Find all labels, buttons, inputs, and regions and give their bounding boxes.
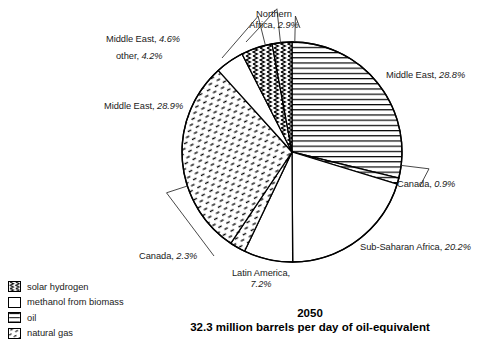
swatch-oil xyxy=(8,312,21,323)
chart-caption: 2050 32.3 million barrels per day of oil… xyxy=(150,306,470,334)
slice-label-other: other, 4.2% xyxy=(116,51,163,62)
swatch-solar-hydrogen xyxy=(8,281,21,292)
legend-row-solar-hydrogen[interactable]: solar hydrogen xyxy=(8,279,188,295)
slice-label-middle-east-oil: Middle East, 28.8% xyxy=(386,70,465,81)
slice-percent: 2.9% xyxy=(278,20,299,30)
slice-percent: 4.2% xyxy=(142,51,163,61)
legend-label: solar hydrogen xyxy=(27,282,89,292)
slice-label-northern-africa: Northern Africa, 2.9% xyxy=(236,9,312,31)
slice-label-middle-east-solar-hydrogen: Middle East, 4.6% xyxy=(106,34,180,45)
legend-label: oil xyxy=(27,313,36,323)
latin-america-line2: 7.2% xyxy=(251,279,272,289)
latin-america-line1: Latin America, xyxy=(232,268,290,278)
slice-label-canada-natural-gas: Canada, 2.3% xyxy=(139,251,197,262)
slice-label-middle-east-natural-gas: Middle East, 28.9% xyxy=(104,101,183,112)
legend-label: methanol from biomass xyxy=(27,297,124,307)
slice-percent: 20.2% xyxy=(445,242,471,252)
caption-subtitle: 32.3 million barrels per day of oil-equi… xyxy=(150,320,470,334)
swatch-natural-gas xyxy=(8,328,21,339)
slice-percent: 4.6% xyxy=(159,34,180,44)
slice-percent: 28.9% xyxy=(157,101,183,111)
northern-africa-line1: Northern xyxy=(256,9,292,19)
slice-percent: 2.3% xyxy=(176,251,197,261)
swatch-methanol-from-biomass xyxy=(8,297,21,308)
slice-percent: 0.9% xyxy=(434,179,455,189)
slice-label-latin-america: Latin America, 7.2% xyxy=(225,268,297,290)
slice-label-canada-oil: Canada, 0.9% xyxy=(397,179,455,190)
caption-year: 2050 xyxy=(150,306,470,320)
pie-slices xyxy=(182,42,402,262)
pie-chart-figure: Northern Africa, 2.9% Middle East, 4.6% … xyxy=(0,0,484,351)
legend-label: natural gas xyxy=(27,328,73,338)
northern-africa-line2: Africa, 2.9% xyxy=(249,20,299,30)
slice-label-sub-saharan-africa: Sub-Saharan Africa, 20.2% xyxy=(360,242,471,253)
slice-percent: 7.2% xyxy=(251,279,272,289)
slice-percent: 28.8% xyxy=(439,70,465,80)
